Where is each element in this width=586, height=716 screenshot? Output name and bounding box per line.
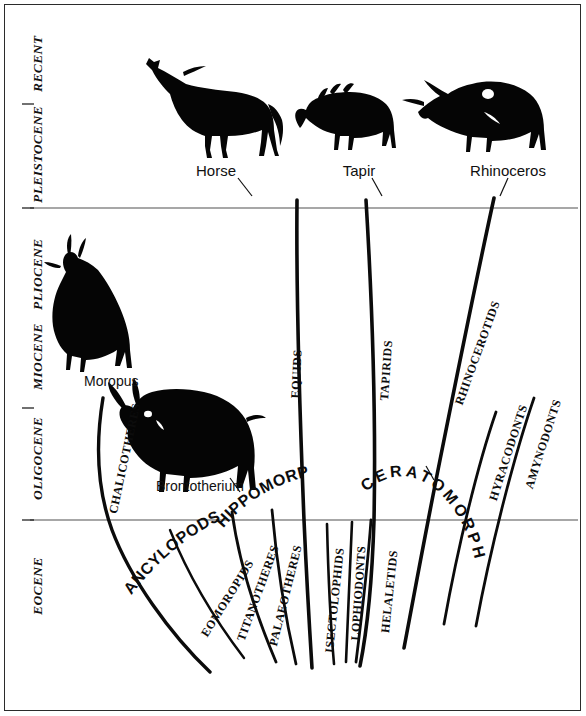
rhinoceros-silhouette	[402, 80, 546, 152]
leader-tapir	[372, 178, 382, 196]
taxon-label-tapir: Tapir	[330, 162, 388, 179]
genus-label-brontotherium: Brontotherium	[156, 478, 244, 494]
horse-silhouette	[146, 58, 283, 158]
lineage-rhinocerotids	[404, 198, 494, 648]
moropus-silhouette	[44, 234, 132, 372]
phylogeny-figure: RECENT PLEISTOCENE PLIOCENE MIOCENE OLIG…	[0, 0, 586, 716]
genus-label-moropus: Moropus	[84, 373, 138, 389]
leader-horse	[238, 178, 252, 196]
lineage-equids	[297, 200, 312, 668]
taxon-label-rhinoceros: Rhinoceros	[462, 162, 554, 179]
lineage-label-equids: EQUIDS	[288, 349, 306, 399]
tapir-silhouette	[295, 83, 396, 150]
leader-rhinoceros	[500, 178, 508, 196]
lineage-amynodonts	[476, 398, 534, 626]
taxon-label-horse: Horse	[185, 162, 247, 179]
